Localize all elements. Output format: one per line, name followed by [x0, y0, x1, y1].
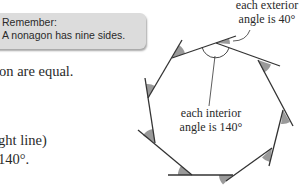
interior-angle-arc-icon [202, 47, 229, 58]
exterior-label-line-1: each exterior [229, 0, 304, 12]
interior-label-line-1: each interior [171, 106, 251, 120]
textbook-page: Remember: A nonagon has nine sides. on a… [0, 0, 304, 186]
side-4 [138, 130, 192, 175]
side-6 [226, 148, 272, 181]
interior-leader-line [209, 56, 215, 106]
exterior-label-line-2: angle is 40° [229, 12, 304, 26]
side-2 [148, 40, 182, 98]
side-7 [269, 110, 283, 166]
exterior-angle-icon [219, 175, 233, 185]
exterior-angle-label: each exterior angle is 40° [229, 0, 304, 26]
side-9 [216, 43, 280, 66]
side-8 [258, 60, 293, 126]
nonagon-diagram [0, 0, 304, 186]
interior-angle-label: each interior angle is 140° [171, 106, 251, 134]
interior-label-line-2: angle is 140° [171, 120, 251, 134]
